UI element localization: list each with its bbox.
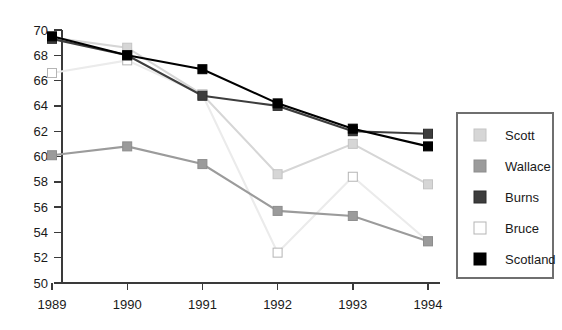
data-point-marker — [48, 32, 57, 41]
data-point-marker — [348, 211, 357, 220]
data-point-marker — [198, 65, 207, 74]
data-point-marker — [198, 160, 207, 169]
data-point-marker — [48, 151, 57, 160]
data-point-marker — [348, 124, 357, 133]
series-wallace — [48, 142, 433, 246]
data-point-marker — [348, 139, 357, 148]
y-tick-label: 58 — [34, 174, 48, 189]
data-point-marker — [273, 170, 282, 179]
data-point-marker — [424, 237, 433, 246]
y-tick-label: 64 — [34, 98, 48, 113]
series-scott — [48, 33, 433, 189]
legend-swatch-scott — [474, 129, 486, 141]
legend-swatch-burns — [474, 191, 486, 203]
data-point-marker — [273, 99, 282, 108]
chart-legend: ScottWallaceBurnsBruceScotland — [457, 113, 556, 278]
series-group — [48, 32, 433, 257]
y-tick-label: 68 — [34, 48, 48, 63]
series-line — [52, 60, 428, 252]
series-line — [52, 36, 428, 146]
x-tick-label: 1990 — [113, 297, 142, 312]
data-point-marker — [348, 172, 357, 181]
x-tick-label: 1989 — [38, 297, 67, 312]
y-tick-label: 60 — [34, 149, 48, 164]
legend-swatch-wallace — [474, 160, 486, 172]
legend-label-wallace: Wallace — [505, 159, 551, 174]
legend-swatch-scotland — [474, 253, 486, 265]
chart-canvas: 5052545658606264666870 19891990199119921… — [0, 0, 562, 330]
y-tick-label: 50 — [34, 276, 48, 291]
x-axis: 198919901991199219931994 — [38, 283, 443, 312]
legend-label-scotland: Scotland — [505, 252, 556, 267]
data-point-marker — [273, 206, 282, 215]
data-point-marker — [424, 180, 433, 189]
x-tick-label: 1991 — [188, 297, 217, 312]
data-point-marker — [123, 51, 132, 60]
data-point-marker — [424, 129, 433, 138]
y-tick-label: 54 — [34, 225, 48, 240]
data-point-marker — [424, 142, 433, 151]
x-tick-label: 1992 — [263, 297, 292, 312]
y-tick-label: 62 — [34, 124, 48, 139]
data-point-marker — [273, 248, 282, 257]
line-chart: 5052545658606264666870 19891990199119921… — [0, 0, 562, 330]
series-line — [52, 38, 428, 185]
legend-label-scott: Scott — [505, 128, 535, 143]
y-tick-label: 52 — [34, 250, 48, 265]
data-point-marker — [198, 91, 207, 100]
y-tick-label: 66 — [34, 73, 48, 88]
x-tick-label: 1993 — [338, 297, 367, 312]
y-tick-label: 70 — [34, 23, 48, 38]
legend-label-bruce: Bruce — [505, 221, 539, 236]
x-tick-label: 1994 — [414, 297, 443, 312]
legend-label-burns: Burns — [505, 190, 539, 205]
y-tick-label: 56 — [34, 200, 48, 215]
x-tick-group: 198919901991199219931994 — [38, 283, 443, 312]
legend-swatch-bruce — [474, 222, 486, 234]
data-point-marker — [123, 142, 132, 151]
data-point-marker — [48, 69, 57, 78]
